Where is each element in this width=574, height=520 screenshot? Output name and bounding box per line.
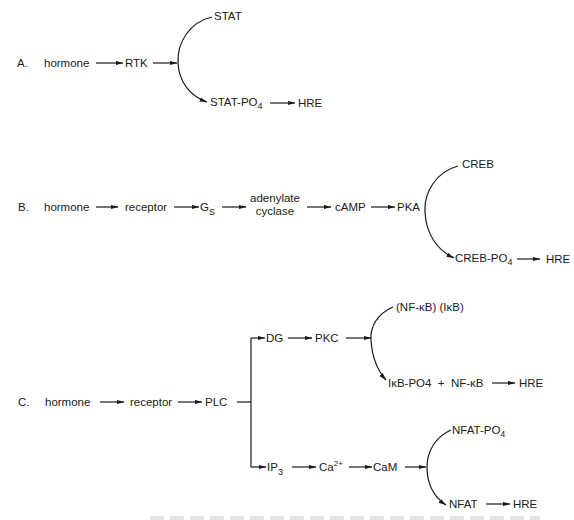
- hre-node: HRE: [519, 377, 544, 389]
- nfkb-ikb-complex-node: (NF-κB) (IκB): [396, 301, 464, 313]
- phosphorylation-curve-arrow: [371, 307, 393, 380]
- plc-node: PLC: [205, 396, 227, 408]
- hormone-node: hormone: [44, 57, 89, 69]
- panel-b-label: B.: [18, 201, 29, 213]
- nfat-po4-node: NFAT-PO4: [452, 424, 505, 439]
- pka-node: PKA: [397, 201, 420, 213]
- calcium-node: Ca2+: [319, 459, 343, 473]
- phosphorylation-curve-arrow: [425, 166, 458, 258]
- panel-a: A. hormone RTK STAT STAT-PO4 HRE: [17, 10, 323, 111]
- stat-node: STAT: [214, 10, 242, 22]
- rtk-node: RTK: [125, 57, 148, 69]
- hormone-node: hormone: [44, 201, 89, 213]
- hormone-node: hormone: [45, 396, 90, 408]
- receptor-node: receptor: [125, 201, 167, 213]
- hre-node: HRE: [298, 97, 323, 109]
- camp-node: cAMP: [335, 201, 366, 213]
- ip3-node: IP3: [267, 461, 283, 477]
- dephosphorylation-curve-arrow: [427, 430, 451, 505]
- adenylate-cyclase-node-line2: cyclase: [256, 205, 294, 217]
- clipped-caption-line: [150, 516, 540, 520]
- cam-node: CaM: [373, 461, 397, 473]
- dg-node: DG: [266, 332, 283, 344]
- phosphorylation-curve-arrow: [178, 17, 212, 102]
- creb-po4-node: CREB-PO4: [455, 252, 512, 267]
- hre-node: HRE: [546, 253, 571, 265]
- receptor-node: receptor: [130, 396, 172, 408]
- adenylate-cyclase-node-line1: adenylate: [250, 192, 300, 204]
- signaling-pathways-diagram: A. hormone RTK STAT STAT-PO4 HRE B. horm…: [0, 0, 574, 520]
- panel-c: C. hormone receptor PLC DG PKC (NF-κB) (…: [18, 301, 544, 510]
- gs-node: GS: [200, 201, 215, 217]
- nfat-node: NFAT: [449, 498, 478, 510]
- panel-c-label: C.: [18, 396, 30, 408]
- creb-node: CREB: [462, 158, 494, 170]
- pkc-node: PKC: [315, 332, 339, 344]
- hre-node: HRE: [513, 498, 538, 510]
- stat-po4-node: STAT-PO4: [210, 96, 263, 111]
- ikb-po4-nfkb-node: IκB-PO4 + NF-κB: [388, 377, 484, 389]
- panel-a-label: A.: [17, 57, 28, 69]
- panel-b: B. hormone receptor GS adenylate cyclase…: [18, 158, 571, 267]
